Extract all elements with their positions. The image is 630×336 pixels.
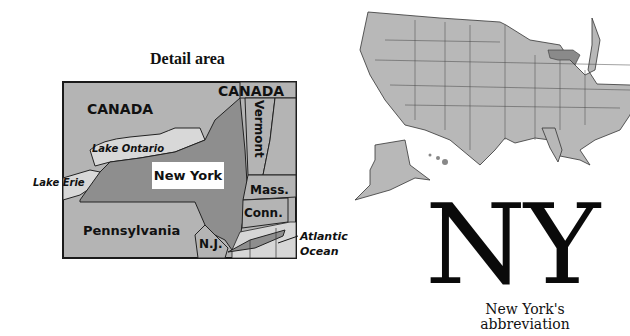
label-massachusetts: Mass. [250, 183, 289, 197]
label-canada-east: CANADA [218, 83, 284, 99]
label-connecticut: Conn. [244, 206, 283, 220]
label-atlantic: Atlantic [300, 230, 348, 243]
label-lake-erie: Lake Erie [33, 177, 85, 188]
label-lake-ontario: Lake Ontario [92, 143, 164, 154]
abbreviation-text: NY [425, 190, 598, 300]
label-new-jersey: N.J. [199, 237, 223, 251]
caption-line-1: New York's [440, 302, 610, 317]
label-pennsylvania: Pennsylvania [83, 223, 180, 238]
abbreviation-caption: New York's abbreviation [440, 302, 610, 332]
caption-line-2: abbreviation [440, 317, 610, 332]
label-ocean: Ocean [300, 245, 339, 258]
label-new-york: New York [152, 162, 224, 189]
label-vermont: Vermont [252, 100, 266, 158]
label-canada-west: CANADA [87, 101, 153, 117]
us-map [330, 0, 630, 210]
